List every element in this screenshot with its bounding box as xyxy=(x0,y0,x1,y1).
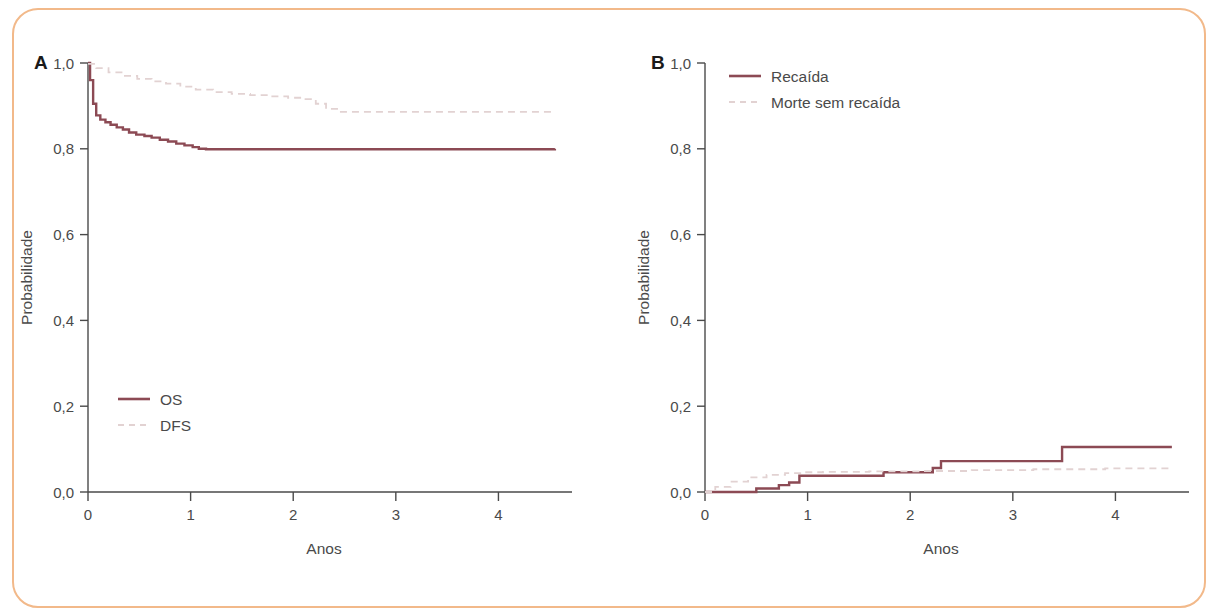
x-axis-title: Anos xyxy=(923,540,959,557)
y-tick-label: 0,2 xyxy=(670,398,691,415)
legend-label: Recaída xyxy=(771,68,829,85)
panel-b-plot: 0,00,20,40,60,81,001234AnosProbabilidade… xyxy=(609,0,1218,582)
panel-a: A 0,00,20,40,60,81,001234AnosProbabilida… xyxy=(0,0,609,582)
y-tick-label: 1,0 xyxy=(53,55,74,72)
legend-label: Morte sem recaída xyxy=(771,94,901,111)
y-tick-label: 0,4 xyxy=(670,312,691,329)
curve-os xyxy=(88,63,555,149)
y-tick-label: 0,0 xyxy=(53,484,74,501)
x-tick-label: 3 xyxy=(1009,506,1017,523)
y-tick-label: 0,8 xyxy=(670,140,691,157)
y-tick-label: 0,6 xyxy=(53,226,74,243)
x-tick-label: 4 xyxy=(494,506,502,523)
panel-a-plot: 0,00,20,40,60,81,001234AnosProbabilidade… xyxy=(0,0,609,582)
curve-dfs xyxy=(88,64,555,112)
y-tick-label: 1,0 xyxy=(670,55,691,72)
x-tick-label: 0 xyxy=(84,506,92,523)
x-tick-label: 2 xyxy=(906,506,914,523)
legend-label: DFS xyxy=(160,417,191,434)
y-tick-label: 0,4 xyxy=(53,312,74,329)
panel-b: B 0,00,20,40,60,81,001234AnosProbabilida… xyxy=(609,0,1218,582)
y-tick-label: 0,8 xyxy=(53,140,74,157)
x-tick-label: 2 xyxy=(289,506,297,523)
y-tick-label: 0,2 xyxy=(53,398,74,415)
y-tick-label: 0,0 xyxy=(670,484,691,501)
curve-recaída xyxy=(705,447,1172,492)
x-axis-title: Anos xyxy=(306,540,342,557)
legend-label: OS xyxy=(160,391,182,408)
x-tick-label: 0 xyxy=(701,506,709,523)
x-tick-label: 4 xyxy=(1111,506,1119,523)
x-tick-label: 1 xyxy=(186,506,194,523)
y-axis-title: Probabilidade xyxy=(635,230,652,325)
x-tick-label: 1 xyxy=(803,506,811,523)
y-axis-title: Probabilidade xyxy=(18,230,35,325)
x-tick-label: 3 xyxy=(392,506,400,523)
y-tick-label: 0,6 xyxy=(670,226,691,243)
